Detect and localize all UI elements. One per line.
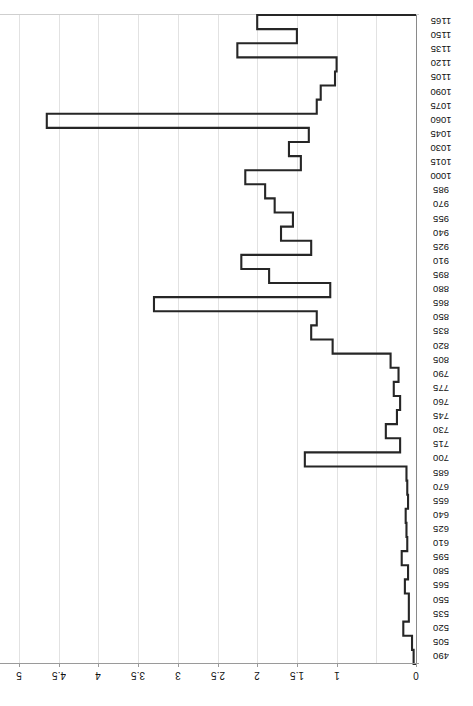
y-tick-label-640: 640 — [419, 510, 463, 520]
x-tick-mark-3-5 — [138, 663, 139, 667]
x-tick-label-2: 2 — [244, 670, 270, 680]
y-tick-label-970: 970 — [419, 199, 463, 209]
y-tick-label-550: 550 — [419, 595, 463, 605]
y-tick-label-850: 850 — [419, 312, 463, 322]
step-polyline — [47, 15, 416, 664]
x-tick-label-0: 0 — [403, 670, 429, 680]
x-tick-mark-2 — [257, 663, 258, 667]
y-tick-label-1150: 1150 — [419, 30, 463, 40]
x-axis-line — [0, 663, 419, 664]
y-tick-label-910: 910 — [419, 256, 463, 266]
y-tick-label-835: 835 — [419, 326, 463, 336]
y-tick-label-1105: 1105 — [419, 72, 463, 82]
y-tick-label-985: 985 — [419, 185, 463, 195]
y-axis-category-labels: 1165115011351120110510901075106010451030… — [419, 14, 473, 663]
y-tick-label-490: 490 — [419, 651, 463, 661]
x-axis: 54.543.532.521.510 — [0, 663, 419, 706]
x-tick-mark-5 — [19, 663, 20, 667]
y-tick-label-685: 685 — [419, 468, 463, 478]
y-tick-label-865: 865 — [419, 298, 463, 308]
y-tick-label-535: 535 — [419, 609, 463, 619]
y-tick-label-1045: 1045 — [419, 129, 463, 139]
y-tick-label-610: 610 — [419, 538, 463, 548]
x-tick-mark-0 — [416, 663, 417, 667]
y-tick-label-700: 700 — [419, 453, 463, 463]
y-tick-label-505: 505 — [419, 637, 463, 647]
x-tick-label-5: 5 — [6, 670, 32, 680]
y-tick-label-1060: 1060 — [419, 115, 463, 125]
y-tick-label-790: 790 — [419, 369, 463, 379]
x-tick-label-1: 1 — [324, 670, 350, 680]
y-tick-label-625: 625 — [419, 524, 463, 534]
x-tick-mark-3 — [178, 663, 179, 667]
y-tick-label-745: 745 — [419, 411, 463, 421]
x-tick-label-4: 4 — [85, 670, 111, 680]
x-tick-mark-4 — [98, 663, 99, 667]
y-tick-label-1135: 1135 — [419, 44, 463, 54]
y-tick-label-1000: 1000 — [419, 171, 463, 181]
y-tick-label-580: 580 — [419, 566, 463, 576]
y-tick-label-880: 880 — [419, 284, 463, 294]
y-tick-label-820: 820 — [419, 341, 463, 351]
x-tick-label-3-5: 3.5 — [125, 670, 151, 680]
y-tick-label-775: 775 — [419, 383, 463, 393]
y-tick-label-1090: 1090 — [419, 87, 463, 97]
y-tick-label-925: 925 — [419, 242, 463, 252]
chart-page: 54.543.532.521.510 116511501135112011051… — [0, 0, 473, 706]
plot-area — [0, 14, 419, 663]
y-tick-label-670: 670 — [419, 482, 463, 492]
y-tick-label-655: 655 — [419, 496, 463, 506]
x-tick-label-4-5: 4.5 — [46, 670, 72, 680]
y-tick-label-940: 940 — [419, 228, 463, 238]
y-tick-label-715: 715 — [419, 439, 463, 449]
y-tick-label-1165: 1165 — [419, 16, 463, 26]
x-tick-mark-1 — [337, 663, 338, 667]
x-tick-mark-2-5 — [218, 663, 219, 667]
y-tick-label-1075: 1075 — [419, 101, 463, 111]
y-tick-label-1120: 1120 — [419, 58, 463, 68]
y-tick-label-955: 955 — [419, 214, 463, 224]
y-tick-label-805: 805 — [419, 355, 463, 365]
y-tick-label-595: 595 — [419, 552, 463, 562]
x-tick-label-3: 3 — [165, 670, 191, 680]
y-tick-label-895: 895 — [419, 270, 463, 280]
x-tick-label-1-5: 1.5 — [284, 670, 310, 680]
x-tick-mark-4-5 — [59, 663, 60, 667]
y-tick-label-1015: 1015 — [419, 157, 463, 167]
y-tick-label-1030: 1030 — [419, 143, 463, 153]
x-tick-label-2-5: 2.5 — [205, 670, 231, 680]
y-tick-label-565: 565 — [419, 580, 463, 590]
y-tick-label-760: 760 — [419, 397, 463, 407]
y-tick-label-520: 520 — [419, 623, 463, 633]
x-tick-mark-1-5 — [297, 663, 298, 667]
y-tick-label-730: 730 — [419, 425, 463, 435]
step-series-line — [0, 15, 419, 664]
